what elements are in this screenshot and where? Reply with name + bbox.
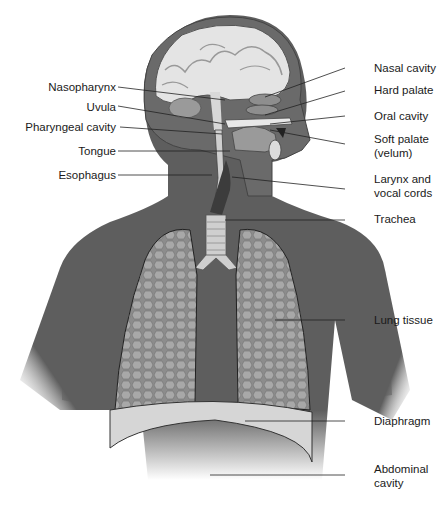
label-hard-palate: Hard palate — [374, 83, 433, 97]
label-nasal-cavity: Nasal cavity — [374, 61, 436, 75]
label-oral-cavity: Oral cavity — [374, 109, 428, 123]
label-esophagus: Esophagus — [58, 168, 116, 182]
label-nasopharynx: Nasopharynx — [48, 80, 116, 94]
respiratory-diagram: Nasopharynx Uvula Pharyngeal cavity Tong… — [0, 0, 444, 518]
label-soft-palate: Soft palate (velum) — [374, 132, 429, 160]
label-uvula: Uvula — [87, 100, 116, 114]
label-pharyngeal-cavity: Pharyngeal cavity — [25, 120, 116, 134]
label-tongue: Tongue — [78, 144, 116, 158]
label-abdominal-cavity: Abdominal cavity — [374, 462, 428, 490]
anatomy-illustration — [0, 0, 444, 518]
label-trachea: Trachea — [374, 212, 416, 226]
label-diaphragm: Diaphragm — [374, 414, 430, 428]
label-larynx: Larynx and vocal cords — [374, 172, 432, 200]
label-lung-tissue: Lung tissue — [374, 313, 433, 327]
